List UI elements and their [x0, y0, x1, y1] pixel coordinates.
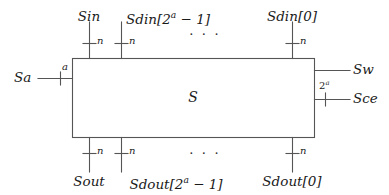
port-label-sout: Sout [73, 175, 105, 189]
width-label-sce: 2a [319, 80, 329, 91]
width-label-sa: a [62, 62, 68, 72]
width-label-sce-exponent: a [325, 79, 329, 87]
top-ellipsis: · · · [189, 28, 221, 41]
block-label: S [188, 90, 198, 104]
width-label-sdin-high: n [129, 36, 135, 46]
port-label-sdin-high-tail: − 1] [176, 11, 210, 27]
width-label-sdin-zero: n [300, 36, 306, 46]
width-label-sin: n [97, 36, 103, 46]
width-label-sdout-high: n [129, 146, 135, 156]
block-diagram-figure: S Sin Sdin[2a − 1] Sdin[0] n n n Sout Sd… [0, 0, 389, 195]
port-label-sdin-high-base: Sdin[2 [126, 11, 171, 27]
port-label-sin: Sin [78, 10, 100, 24]
port-label-sw: Sw [353, 63, 374, 77]
width-label-sdout-zero: n [300, 146, 306, 156]
bottom-ellipsis: · · · [189, 147, 221, 160]
port-label-sdin-zero: Sdin[0] [267, 10, 317, 24]
port-label-sdout-high-tail: − 1] [189, 176, 223, 192]
width-label-sout: n [97, 146, 103, 156]
port-label-sdout-high-base: Sdout[2 [129, 176, 183, 192]
port-label-sce: Sce [353, 92, 378, 106]
port-label-sdout-high: Sdout[2a − 1] [129, 175, 222, 191]
port-label-sdin-high: Sdin[2a − 1] [126, 10, 210, 26]
port-label-sdout-zero: Sdout[0] [262, 175, 321, 189]
port-label-sa: Sa [14, 71, 31, 85]
